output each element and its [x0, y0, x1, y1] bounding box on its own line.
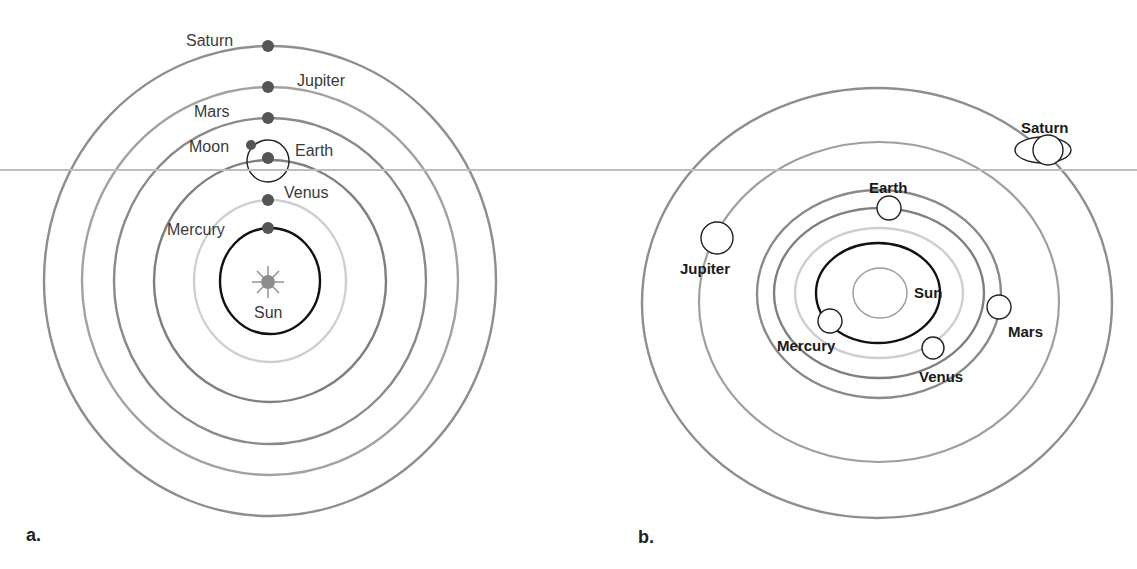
planet-dot-earth-a: [262, 152, 274, 164]
sun-icon-a: [252, 266, 284, 298]
label-sun-b: Sun: [914, 284, 942, 301]
label-mars-b: Mars: [1008, 323, 1043, 340]
panel-label-b: b.: [638, 527, 654, 547]
planet-mars-b: [987, 295, 1011, 319]
planet-dot-venus-a: [262, 194, 274, 206]
label-mercury-a: Mercury: [167, 221, 225, 238]
label-mars-a: Mars: [194, 103, 230, 120]
planet-dot-mercury-a: [262, 222, 274, 234]
panel-label-a: a.: [26, 525, 41, 545]
diagram-b: Saturn Earth Jupiter Sun Mars Mercury Ve…: [638, 88, 1112, 547]
label-saturn-a: Saturn: [186, 32, 233, 49]
saturn-body: [1033, 135, 1063, 165]
label-venus-b: Venus: [919, 368, 963, 385]
sun-b: [853, 268, 907, 318]
planet-jupiter-b: [701, 222, 733, 254]
planet-dot-moon-a: [246, 140, 256, 150]
label-saturn-b: Saturn: [1021, 119, 1069, 136]
planet-earth-b: [877, 196, 901, 220]
label-mercury-b: Mercury: [777, 337, 836, 354]
planet-dot-mars-a: [262, 112, 274, 124]
label-earth-a: Earth: [295, 142, 333, 159]
planet-venus-b: [922, 337, 944, 359]
solar-system-diagrams: Saturn Jupiter Mars Moon Earth Venus Mer…: [0, 0, 1137, 569]
label-sun-a: Sun: [254, 304, 282, 321]
label-venus-a: Venus: [284, 184, 328, 201]
label-moon-a: Moon: [189, 138, 229, 155]
planet-dot-jupiter-a: [262, 81, 274, 93]
diagram-a: Saturn Jupiter Mars Moon Earth Venus Mer…: [26, 32, 496, 545]
planet-mercury-b: [818, 309, 842, 333]
planet-saturn-b: [1015, 135, 1071, 165]
label-earth-b: Earth: [869, 179, 907, 196]
planet-dot-saturn-a: [262, 40, 274, 52]
label-jupiter-a: Jupiter: [297, 72, 346, 89]
label-jupiter-b: Jupiter: [680, 260, 730, 277]
